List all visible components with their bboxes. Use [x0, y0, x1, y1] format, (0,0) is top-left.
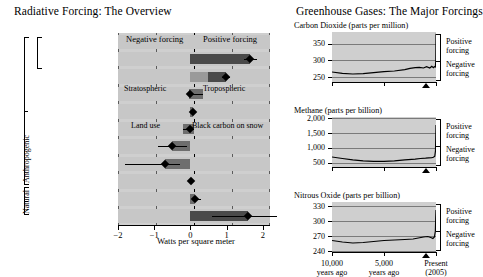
- x-tick-label: −1: [142, 230, 166, 240]
- subchart-x-tick: [436, 252, 437, 256]
- negative-forcing-label: Negative forcing: [446, 61, 475, 78]
- subchart-y-label: 300: [286, 56, 325, 65]
- subchart-plot-area: [332, 202, 436, 252]
- positive-forcing-label: Positive forcing: [446, 208, 472, 225]
- subchart-x-tick: [332, 167, 333, 171]
- group-label-anthropogenic: Anthropogenic: [22, 135, 31, 183]
- subchart-y-tick: [328, 206, 332, 207]
- subchart-y-tick: [328, 163, 332, 164]
- subchart-x-tick-label: 10,000 years ago: [308, 259, 356, 277]
- x-axis-line: [118, 225, 270, 226]
- subchart-y-tick: [328, 118, 332, 119]
- bracket-greenhouse-gases: [37, 37, 38, 69]
- group-label-natural: Natural: [22, 190, 31, 214]
- right-panel-title: Greenhouse Gases: The Major Forcings: [296, 5, 483, 17]
- label-black-carbon-on-snow: Black carbon on snow: [192, 121, 263, 130]
- subchart-y-tick: [328, 44, 332, 45]
- subchart-y-label: 500: [286, 158, 325, 167]
- subchart-series: [332, 202, 436, 252]
- subchart-series: [332, 32, 436, 82]
- negative-forcing-bracket: [440, 146, 441, 166]
- subchart-y-tick: [328, 148, 332, 149]
- bracket-anthropogenic-nub: [24, 111, 28, 112]
- subchart-y-label: 240: [286, 247, 325, 256]
- negative-forcing-label: Negative forcing: [446, 146, 475, 163]
- subchart-x-tick: [384, 82, 385, 86]
- subchart-x-tick-label: Present (2005): [412, 259, 460, 277]
- positive-forcing-bracket: [440, 119, 441, 147]
- label-tropospheric: Tropospheric: [203, 84, 245, 93]
- forcing-bar: [190, 72, 207, 82]
- subchart-y-label: 250: [286, 73, 325, 82]
- present-day-marker: [422, 253, 430, 258]
- x-tick-label: 1: [215, 230, 239, 240]
- subchart-series: [332, 117, 436, 167]
- subchart-y-label: 350: [286, 39, 325, 48]
- subchart-y-label: 300: [286, 217, 325, 226]
- subchart-x-tick: [384, 167, 385, 171]
- subchart-y-label: 270: [286, 232, 325, 241]
- subchart-y-tick: [328, 77, 332, 78]
- subchart-x-tick-label: 5,000 years ago: [360, 259, 408, 277]
- positive-forcing-bracket: [440, 34, 441, 62]
- subchart-y-tick: [328, 133, 332, 134]
- subchart-x-tick: [436, 167, 437, 171]
- subchart-title: Carbon Dioxide (parts per million): [294, 21, 408, 30]
- label-stratospheric: Stratospheric: [124, 84, 166, 93]
- x-tick-label: 0: [178, 230, 202, 240]
- subchart-x-tick: [332, 82, 333, 86]
- subchart-y-label: 330: [286, 202, 325, 211]
- right-panel: Greenhouse Gases: The Major Forcings Car…: [286, 0, 473, 269]
- left-panel-title: Radiative Forcing: The Overview: [14, 5, 172, 17]
- left-panel: Radiative Forcing: The Overview Negative…: [0, 0, 285, 269]
- present-day-marker: [422, 168, 430, 173]
- subchart-plot-area: [332, 117, 436, 167]
- header-negative-forcing: Negative forcing: [126, 34, 183, 44]
- subchart-y-label: 1,500: [286, 129, 325, 138]
- forcing-bar: [190, 54, 250, 64]
- subchart-x-tick: [332, 252, 333, 256]
- x-tick-label: −2: [106, 230, 130, 240]
- negative-forcing-label: Negative forcing: [446, 231, 475, 248]
- uncertainty-whisker: [125, 164, 179, 165]
- present-day-marker: [422, 83, 430, 88]
- row-band: [118, 139, 270, 153]
- subchart-y-tick: [328, 236, 332, 237]
- subchart-title: Nitrous Oxide (parts per billion): [294, 191, 400, 200]
- subchart-y-label: 1,000: [286, 143, 325, 152]
- subchart-x-tick: [384, 252, 385, 256]
- positive-forcing-bracket: [440, 204, 441, 232]
- label-land-use: Land use: [131, 121, 160, 130]
- subchart-y-tick: [328, 221, 332, 222]
- header-positive-forcing: Positive forcing: [203, 34, 257, 44]
- subchart-plot-area: [332, 32, 436, 82]
- x-tick-label: 2: [251, 230, 275, 240]
- subchart-y-tick: [328, 60, 332, 61]
- subchart-y-label: 2,000: [286, 114, 325, 123]
- negative-forcing-bracket: [440, 61, 441, 81]
- negative-forcing-bracket: [440, 231, 441, 251]
- positive-forcing-label: Positive forcing: [446, 38, 472, 55]
- subchart-x-tick: [436, 82, 437, 86]
- positive-forcing-label: Positive forcing: [446, 123, 472, 140]
